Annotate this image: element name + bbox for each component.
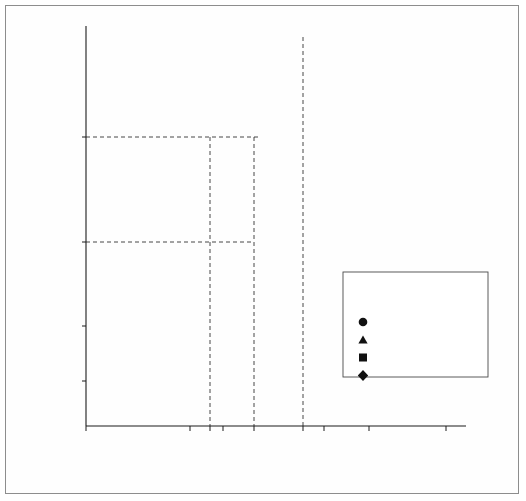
chart-frame <box>5 5 519 494</box>
reference-lines <box>86 37 303 426</box>
chart-plot-area <box>6 6 520 495</box>
legend-entry-2[interactable] <box>359 354 367 362</box>
scatter-chart-svg <box>6 6 520 495</box>
x-ticks <box>86 426 446 431</box>
legend-entry-0[interactable] <box>359 318 368 327</box>
legend <box>343 272 488 381</box>
y-ticks <box>82 137 86 381</box>
